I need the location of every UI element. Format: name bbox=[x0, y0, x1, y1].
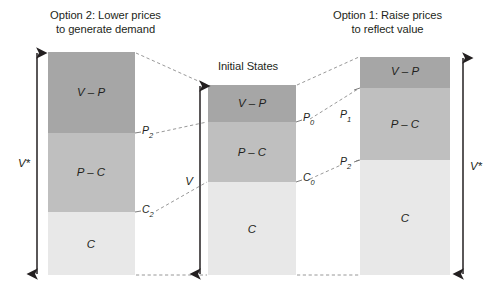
bar-right bbox=[360, 57, 450, 275]
point-label-c0-middle: C0 bbox=[303, 171, 315, 186]
tick-left-c2 bbox=[135, 211, 141, 212]
axis-label-middle-v: V bbox=[185, 175, 193, 187]
label-right-c: C bbox=[401, 212, 409, 224]
label-middle-p-minus-c: P – C bbox=[238, 146, 266, 158]
tick-left-p2 bbox=[135, 132, 141, 133]
tick-mid-c0 bbox=[296, 180, 302, 182]
point-label-c2-left-sub: 2 bbox=[150, 210, 154, 219]
point-label-c2-left-text: C bbox=[142, 203, 150, 215]
title-option-1: Option 1: Raise prices to reflect value bbox=[300, 9, 475, 36]
figure-canvas: Option 2: Lower prices to generate deman… bbox=[0, 0, 496, 293]
point-label-c2-left: C2 bbox=[142, 203, 154, 218]
label-left-c: C bbox=[87, 238, 95, 250]
point-label-p2-left-sub: 2 bbox=[149, 131, 153, 140]
point-label-p2-left-text: P bbox=[142, 124, 149, 136]
label-right-p-minus-c: P – C bbox=[391, 118, 419, 130]
axis-label-right-v-star: V* bbox=[470, 160, 482, 172]
point-label-c0-middle-text: C bbox=[303, 171, 311, 183]
title-option-2: Option 2: Lower prices to generate deman… bbox=[18, 9, 193, 36]
label-middle-c: C bbox=[248, 223, 256, 235]
point-label-p2-right-text: P bbox=[340, 155, 347, 167]
point-label-p2-left: P2 bbox=[142, 124, 153, 139]
point-label-p1-right: P1 bbox=[340, 108, 351, 123]
label-right-v-minus-p: V – P bbox=[391, 65, 419, 77]
label-left-p-minus-c: P – C bbox=[77, 166, 105, 178]
title-initial-states: Initial States bbox=[192, 60, 304, 74]
point-label-p1-right-sub: 1 bbox=[347, 115, 351, 124]
point-label-p0-middle: P0 bbox=[303, 111, 314, 126]
connector-mid-top bbox=[297, 57, 359, 85]
tick-mid-p0 bbox=[296, 120, 302, 122]
point-label-p0-middle-text: P bbox=[303, 111, 310, 123]
label-left-v-minus-p: V – P bbox=[77, 86, 105, 98]
point-label-c0-middle-sub: 0 bbox=[311, 178, 315, 187]
point-label-p1-right-text: P bbox=[340, 108, 347, 120]
point-label-p2-right: P2 bbox=[340, 155, 351, 170]
label-middle-v-minus-p: V – P bbox=[238, 97, 266, 109]
axis-label-left-v-star: V* bbox=[18, 157, 30, 169]
bar-middle bbox=[208, 85, 296, 275]
point-label-p0-middle-sub: 0 bbox=[310, 118, 314, 127]
point-label-p2-right-sub: 2 bbox=[347, 162, 351, 171]
